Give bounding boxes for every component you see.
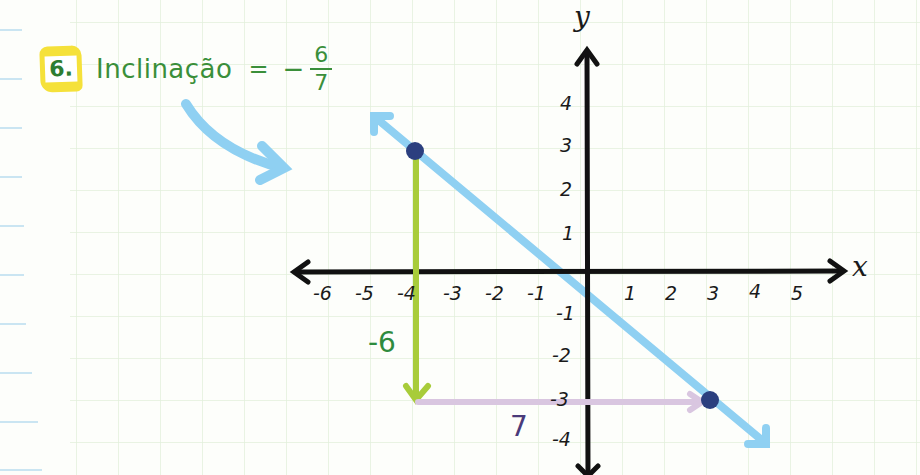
y-tick: 3 [560,134,572,156]
point-a [406,142,424,160]
problem-number-badge: 6. [39,45,83,92]
x-tick: -5 [355,282,374,304]
x-axis-name: x [852,250,868,283]
slope-title: 6. Inclinação = − 6 7 [40,44,332,94]
slope-label: Inclinação [96,54,232,84]
point-b [701,391,719,409]
x-tick: 1 [624,282,636,304]
y-tick: -2 [552,344,571,366]
y-tick: 4 [560,92,572,114]
x-tick: -1 [527,282,546,304]
y-axis-name: y [574,0,590,33]
y-tick: -3 [550,388,569,410]
x-tick: 5 [791,282,803,304]
equals-sign: = [248,55,268,83]
x-tick: 2 [665,282,677,304]
slope-fraction: 6 7 [310,43,332,95]
problem-number: 6. [45,55,78,82]
x-tick: -4 [397,282,416,304]
fraction-denominator: 7 [314,71,328,95]
x-tick: 3 [707,282,719,304]
x-tick: -2 [485,282,504,304]
x-tick: -3 [443,282,462,304]
minus-sign: − [283,54,305,84]
y-tick: -4 [552,428,571,450]
rise-label: -6 [368,326,396,359]
y-tick: 1 [562,222,574,244]
margin-lines [0,30,42,470]
y-tick: 2 [560,178,572,200]
fraction-numerator: 6 [314,43,328,67]
x-tick: -6 [313,282,332,304]
y-tick: -1 [556,302,575,324]
x-tick: 4 [749,280,761,302]
run-label: 7 [510,410,528,443]
